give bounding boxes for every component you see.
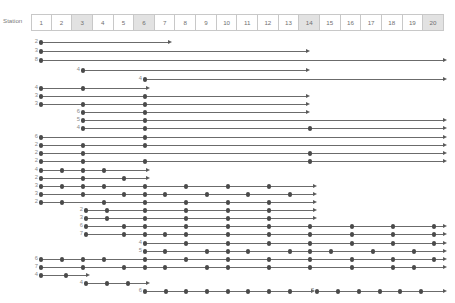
station-cell-14[interactable]: 14 <box>299 14 320 31</box>
route-stop-dot[interactable] <box>60 257 65 262</box>
route-stop-dot[interactable] <box>288 289 293 294</box>
route-stop-dot[interactable] <box>122 265 127 270</box>
route-stop-dot[interactable] <box>308 249 313 254</box>
route-stop-dot[interactable] <box>267 208 272 213</box>
route-stop-dot[interactable] <box>226 257 231 262</box>
route-stop-dot[interactable] <box>81 102 86 107</box>
route-stop-dot[interactable] <box>226 200 231 205</box>
route-stop-dot[interactable] <box>143 77 148 82</box>
route-stop-dot[interactable] <box>143 102 148 107</box>
route-stop-dot[interactable] <box>60 200 65 205</box>
route-stop-dot[interactable] <box>391 241 396 246</box>
route-stop-dot[interactable] <box>39 176 44 181</box>
route-stop-dot[interactable] <box>308 265 313 270</box>
route-stop-dot[interactable] <box>122 224 127 229</box>
route-stop-dot[interactable] <box>267 200 272 205</box>
station-cell-18[interactable]: 18 <box>382 14 403 31</box>
route-stop-dot[interactable] <box>81 265 86 270</box>
route-stop-dot[interactable] <box>143 192 148 197</box>
route-stop-dot[interactable] <box>391 232 396 237</box>
route-stop-dot[interactable] <box>143 224 148 229</box>
route-stop-dot[interactable] <box>122 176 127 181</box>
station-cell-3[interactable]: 3 <box>72 14 93 31</box>
route-stop-dot[interactable] <box>143 232 148 237</box>
route-stop-dot[interactable] <box>205 289 210 294</box>
station-cell-17[interactable]: 17 <box>361 14 382 31</box>
route-stop-dot[interactable] <box>143 118 148 123</box>
station-cell-16[interactable]: 16 <box>341 14 362 31</box>
route-stop-dot[interactable] <box>391 257 396 262</box>
route-stop-dot[interactable] <box>39 94 44 99</box>
station-cell-8[interactable]: 8 <box>175 14 196 31</box>
route-stop-dot[interactable] <box>226 232 231 237</box>
route-stop-dot[interactable] <box>267 265 272 270</box>
route-stop-dot[interactable] <box>102 257 107 262</box>
station-cell-2[interactable]: 2 <box>52 14 73 31</box>
route-stop-dot[interactable] <box>143 208 148 213</box>
route-stop-dot[interactable] <box>39 102 44 107</box>
route-stop-dot[interactable] <box>350 265 355 270</box>
route-stop-dot[interactable] <box>226 216 231 221</box>
route-stop-dot[interactable] <box>308 126 313 131</box>
route-stop-dot[interactable] <box>39 200 44 205</box>
route-stop-dot[interactable] <box>391 224 396 229</box>
route-stop-dot[interactable] <box>226 208 231 213</box>
route-stop-dot[interactable] <box>143 143 148 148</box>
route-stop-dot[interactable] <box>267 184 272 189</box>
route-stop-dot[interactable] <box>246 249 251 254</box>
route-stop-dot[interactable] <box>81 184 86 189</box>
route-stop-dot[interactable] <box>60 184 65 189</box>
route-stop-dot[interactable] <box>81 151 86 156</box>
route-stop-dot[interactable] <box>267 241 272 246</box>
route-stop-dot[interactable] <box>184 257 189 262</box>
route-stop-dot[interactable] <box>308 151 313 156</box>
route-stop-dot[interactable] <box>39 168 44 173</box>
route-stop-dot[interactable] <box>226 249 231 254</box>
station-cell-6[interactable]: 6 <box>134 14 155 31</box>
route-stop-dot[interactable] <box>432 224 437 229</box>
route-stop-dot[interactable] <box>143 265 148 270</box>
route-stop-dot[interactable] <box>39 151 44 156</box>
route-stop-dot[interactable] <box>126 281 131 286</box>
route-stop-dot[interactable] <box>102 184 107 189</box>
route-stop-dot[interactable] <box>143 159 148 164</box>
route-stop-dot[interactable] <box>84 208 89 213</box>
route-stop-dot[interactable] <box>432 232 437 237</box>
route-stop-dot[interactable] <box>308 224 313 229</box>
route-stop-dot[interactable] <box>60 168 65 173</box>
station-cell-12[interactable]: 12 <box>258 14 279 31</box>
route-stop-dot[interactable] <box>226 289 231 294</box>
route-stop-dot[interactable] <box>350 224 355 229</box>
route-stop-dot[interactable] <box>246 192 251 197</box>
route-stop-dot[interactable] <box>81 68 86 73</box>
route-stop-dot[interactable] <box>246 289 251 294</box>
route-stop-dot[interactable] <box>350 257 355 262</box>
route-stop-dot[interactable] <box>39 58 44 63</box>
route-stop-dot[interactable] <box>39 40 44 45</box>
route-stop-dot[interactable] <box>288 192 293 197</box>
route-stop-dot[interactable] <box>84 232 89 237</box>
route-stop-dot[interactable] <box>64 273 69 278</box>
route-stop-dot[interactable] <box>412 249 417 254</box>
route-stop-dot[interactable] <box>143 249 148 254</box>
route-stop-dot[interactable] <box>39 257 44 262</box>
route-stop-dot[interactable] <box>288 249 293 254</box>
route-stop-dot[interactable] <box>39 273 44 278</box>
route-stop-dot[interactable] <box>357 289 362 294</box>
route-stop-dot[interactable] <box>308 159 313 164</box>
route-stop-dot[interactable] <box>105 216 110 221</box>
route-stop-dot[interactable] <box>81 192 86 197</box>
route-stop-dot[interactable] <box>143 216 148 221</box>
station-cell-20[interactable]: 20 <box>423 14 444 31</box>
route-stop-dot[interactable] <box>267 257 272 262</box>
route-stop-dot[interactable] <box>336 289 341 294</box>
route-stop-dot[interactable] <box>39 184 44 189</box>
station-cell-1[interactable]: 1 <box>31 14 52 31</box>
route-stop-dot[interactable] <box>143 110 148 115</box>
route-stop-dot[interactable] <box>226 184 231 189</box>
route-stop-dot[interactable] <box>39 143 44 148</box>
route-stop-dot[interactable] <box>84 224 89 229</box>
station-cell-19[interactable]: 19 <box>403 14 424 31</box>
route-stop-dot[interactable] <box>412 265 417 270</box>
route-stop-dot[interactable] <box>143 241 148 246</box>
